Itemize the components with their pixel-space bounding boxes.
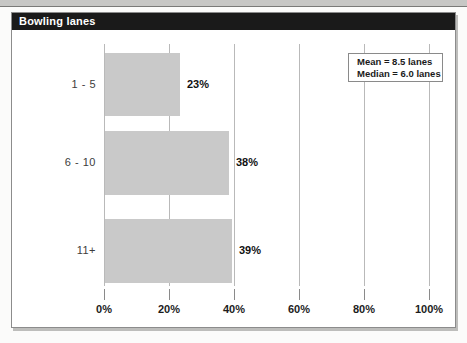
chart-title-bar: Bowling lanes — [12, 13, 455, 30]
category-label-11plus: 11+ — [26, 244, 96, 256]
value-label-11plus: 39% — [239, 244, 261, 256]
axis-tick-80pct — [364, 289, 365, 300]
mean-annotation: Mean = 8.5 lanes — [357, 56, 442, 68]
category-label-6-10: 6 - 10 — [26, 156, 96, 168]
chart-window: Bowling lanes 1 - 5 6 - 10 11+ 23% 38% 3… — [11, 12, 456, 328]
axis-label-60pct: 60% — [269, 303, 329, 315]
axis-label-0pct: 0% — [74, 303, 134, 315]
axis-label-100pct: 100% — [399, 303, 459, 315]
category-label-1-5: 1 - 5 — [26, 78, 96, 90]
axis-tick-0pct — [104, 289, 105, 300]
gridline-60pct — [299, 44, 300, 286]
bar-1-5 — [105, 53, 180, 116]
axis-tick-40pct — [234, 289, 235, 300]
axis-tick-20pct — [169, 289, 170, 300]
scan-edge-artifact — [0, 0, 467, 7]
axis-tick-100pct — [429, 289, 430, 300]
median-annotation: Median = 6.0 lanes — [357, 68, 442, 80]
stats-legend-box: Mean = 8.5 lanes Median = 6.0 lanes — [348, 53, 443, 82]
bar-6-10 — [105, 131, 229, 195]
axis-label-20pct: 20% — [139, 303, 199, 315]
value-label-1-5: 23% — [187, 78, 209, 90]
axis-label-80pct: 80% — [334, 303, 394, 315]
gridline-40pct — [234, 44, 235, 286]
axis-tick-60pct — [299, 289, 300, 300]
axis-label-40pct: 40% — [204, 303, 264, 315]
chart-title: Bowling lanes — [19, 15, 96, 27]
bar-11plus — [105, 219, 232, 283]
value-label-6-10: 38% — [236, 156, 258, 168]
